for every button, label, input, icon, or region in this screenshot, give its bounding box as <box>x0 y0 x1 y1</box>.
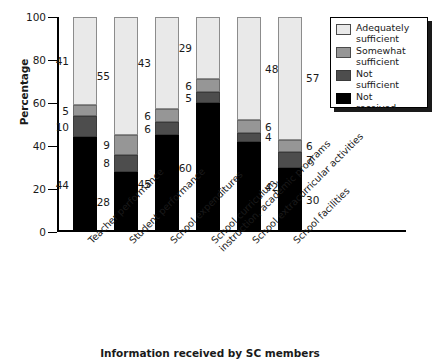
bar-value-label: 6 <box>265 121 287 132</box>
y-axis-title: Percentage <box>18 32 30 152</box>
legend-label: Notreceived <box>356 92 396 113</box>
legend-item[interactable]: Notsufficient <box>336 69 423 90</box>
bar-segment <box>155 109 179 122</box>
bar-segment <box>196 17 220 79</box>
legend-item[interactable]: Notreceived <box>336 92 423 113</box>
bar-segment <box>73 105 97 116</box>
legend-item[interactable]: Somewhatsufficient <box>336 46 423 67</box>
legend-swatch <box>336 70 351 81</box>
bar-segment <box>196 92 220 103</box>
bar-value-label: 10 <box>47 121 69 132</box>
legend-swatch <box>336 24 351 35</box>
y-axis-tick-label: 20 <box>16 184 46 195</box>
bar-segment <box>196 79 220 92</box>
y-axis-tick-label: 40 <box>16 141 46 152</box>
y-axis-tick-label: 0 <box>16 227 46 238</box>
bar-segment <box>73 116 97 138</box>
bar-value-label: 29 <box>170 43 192 54</box>
y-axis-tick <box>48 17 57 18</box>
bar-value-label: 43 <box>129 58 151 69</box>
bar-value-label: 44 <box>47 179 69 190</box>
bar-value-label: 28 <box>88 197 110 208</box>
bar-segment <box>73 17 97 105</box>
bar-segment <box>155 122 179 135</box>
x-axis-title: Information received by SC members <box>0 347 420 359</box>
legend-label: Notsufficient <box>356 69 399 90</box>
bar-segment <box>237 133 261 142</box>
bar-value-label: 9 <box>88 140 110 151</box>
bar-value-label: 48 <box>265 63 287 74</box>
legend-item[interactable]: Adequatelysufficient <box>336 23 423 44</box>
bar-value-label: 55 <box>88 71 110 82</box>
legend-swatch <box>336 47 351 58</box>
bar-value-label: 5 <box>47 105 69 116</box>
y-axis-tick-label: 60 <box>16 98 46 109</box>
bar-value-label: 41 <box>47 56 69 67</box>
bar-value-label: 5 <box>170 92 192 103</box>
y-axis-tick-label: 80 <box>16 55 46 66</box>
bar-segment <box>114 155 138 172</box>
y-axis-tick-label: 100 <box>16 12 46 23</box>
y-axis-tick <box>48 103 57 104</box>
bar-value-label: 6 <box>129 124 151 135</box>
chart-legend: AdequatelysufficientSomewhatsufficientNo… <box>330 17 428 108</box>
stacked-bar-chart: Percentage 100806040200 4410541288955456… <box>0 0 436 363</box>
bar-value-label: 57 <box>306 73 328 84</box>
bar-segment <box>73 137 97 232</box>
legend-swatch <box>336 93 351 104</box>
bar-segment <box>114 135 138 154</box>
bar-value-label: 6 <box>129 111 151 122</box>
bar-segment <box>237 17 261 120</box>
bar-value-label: 8 <box>88 158 110 169</box>
legend-label: Somewhatsufficient <box>356 46 406 67</box>
bar-value-label: 60 <box>170 162 192 173</box>
bar-segment <box>237 120 261 133</box>
y-axis-tick <box>48 146 57 147</box>
bar-value-label: 4 <box>265 132 287 143</box>
legend-label: Adequatelysufficient <box>356 23 409 44</box>
y-axis-tick <box>48 232 57 233</box>
bar-value-label: 6 <box>170 81 192 92</box>
